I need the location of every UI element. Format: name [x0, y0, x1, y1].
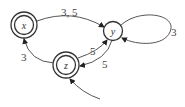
node-label-y: y	[110, 26, 116, 37]
edge-label-x-to-y: 3, 5	[61, 6, 78, 18]
node-z: z	[53, 52, 79, 78]
node-label-x: x	[21, 20, 27, 31]
node-label-z: z	[63, 60, 68, 71]
edge-label-y-to-z: 5	[102, 58, 108, 70]
edge-y-self-loop	[121, 15, 171, 43]
node-y: y	[104, 22, 123, 41]
edge-label-z-to-y: 5	[90, 45, 96, 57]
state-diagram: 3, 5 3 5 5 3 x y z	[0, 0, 185, 107]
edge-initial-to-z	[70, 79, 100, 99]
node-x: x	[11, 12, 37, 38]
edge-label-y-self-loop: 3	[171, 26, 177, 38]
edge-label-z-to-x: 3	[21, 51, 27, 63]
edge-z-to-x	[24, 39, 54, 63]
